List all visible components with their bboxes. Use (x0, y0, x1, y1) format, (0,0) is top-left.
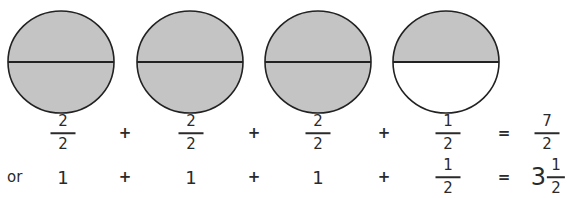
numerator: 2 (58, 114, 68, 129)
plus-operator: + (378, 170, 391, 185)
numerator: 2 (313, 114, 323, 129)
circle-3 (265, 11, 371, 113)
fraction-bar (436, 132, 461, 134)
plus-operator: + (378, 126, 391, 141)
plus-operator: + (119, 126, 132, 141)
fraction-part: 1 2 (547, 158, 565, 196)
equals-sign: = (498, 170, 511, 185)
whole-part: 3 (531, 165, 546, 189)
numerator: 1 (443, 158, 453, 173)
circles-layer (0, 0, 574, 198)
fraction-bar (306, 132, 331, 134)
plus-operator: + (248, 170, 261, 185)
fraction-bar (51, 132, 76, 134)
denominator: 2 (313, 137, 323, 152)
denominator: 2 (551, 181, 561, 196)
fraction-term-3: 2 2 (306, 114, 331, 152)
fraction-term-2: 2 2 (179, 114, 204, 152)
fraction-bar (179, 132, 204, 134)
denominator: 2 (542, 137, 552, 152)
mixed-number-result: 3 1 2 (531, 158, 565, 196)
circle-4 (393, 11, 499, 113)
plus-operator: + (248, 126, 261, 141)
fraction-bar (436, 176, 461, 178)
fraction-term-1: 2 2 (51, 114, 76, 152)
denominator: 2 (443, 137, 453, 152)
denominator: 2 (58, 137, 68, 152)
fraction-result: 7 2 (535, 114, 560, 152)
numerator: 7 (542, 114, 552, 129)
fraction-term-4: 1 2 (436, 114, 461, 152)
denominator: 2 (186, 137, 196, 152)
numerator: 1 (443, 114, 453, 129)
whole-term-1: 1 (57, 169, 68, 187)
whole-term-2: 1 (185, 169, 196, 187)
circle-2 (137, 11, 243, 113)
fraction-diagram: 2 2 + 2 2 + 2 2 + 1 2 = 7 2 or 1 + 1 + 1… (0, 0, 574, 198)
fraction-bar (547, 176, 565, 178)
whole-term-3: 1 (312, 169, 323, 187)
numerator: 2 (186, 114, 196, 129)
or-label: or (7, 170, 22, 185)
circle-1 (8, 11, 114, 113)
plus-operator: + (119, 170, 132, 185)
numerator: 1 (551, 158, 561, 173)
fraction-term-4: 1 2 (436, 158, 461, 196)
denominator: 2 (443, 181, 453, 196)
fraction-bar (535, 132, 560, 134)
equals-sign: = (498, 126, 511, 141)
